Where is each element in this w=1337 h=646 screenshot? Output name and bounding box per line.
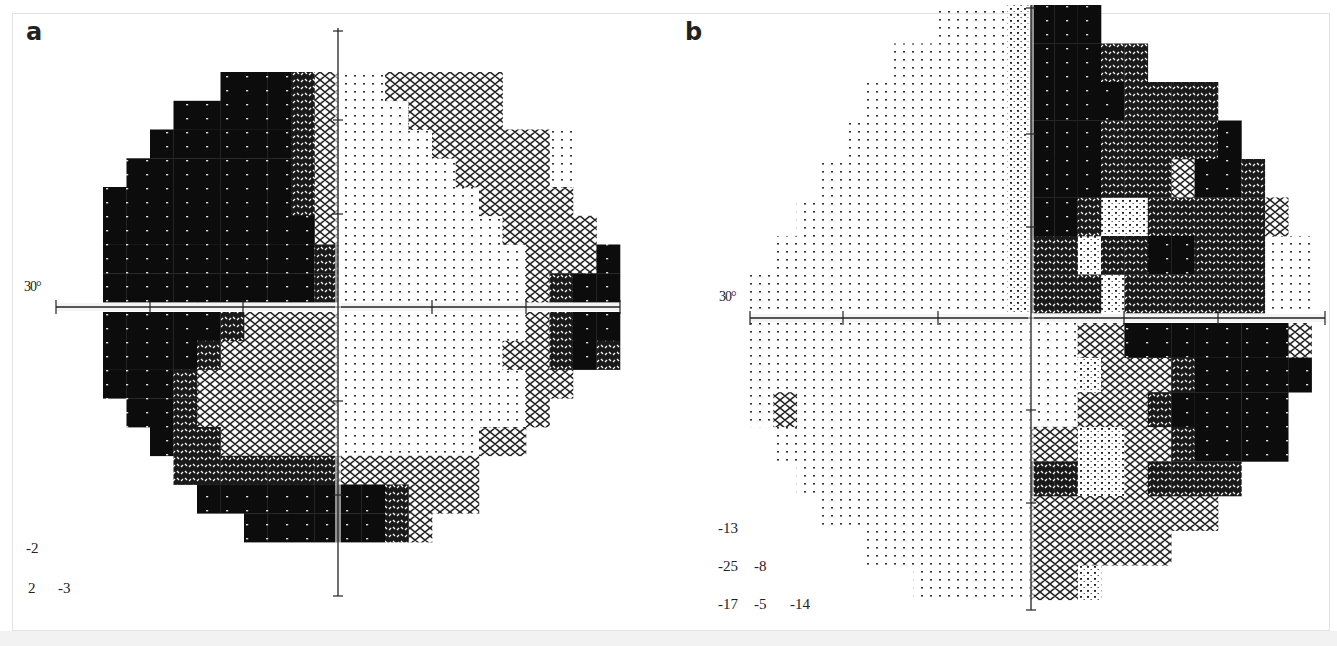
value: -25 bbox=[718, 558, 738, 575]
value: -2 bbox=[26, 540, 39, 557]
value: -13 bbox=[718, 520, 738, 537]
panel-a-degree-label: 30° bbox=[24, 279, 41, 295]
value: -14 bbox=[790, 596, 810, 613]
panel-a-label: a bbox=[26, 18, 42, 46]
visual-field-plots bbox=[0, 0, 1337, 646]
panel-b-degree-label: 30° bbox=[719, 289, 736, 305]
panel-b-label: b bbox=[685, 18, 702, 46]
value: -5 bbox=[754, 596, 767, 613]
value: 2 bbox=[28, 580, 36, 597]
value: -17 bbox=[718, 596, 738, 613]
value: -8 bbox=[754, 558, 767, 575]
value: -3 bbox=[58, 580, 71, 597]
